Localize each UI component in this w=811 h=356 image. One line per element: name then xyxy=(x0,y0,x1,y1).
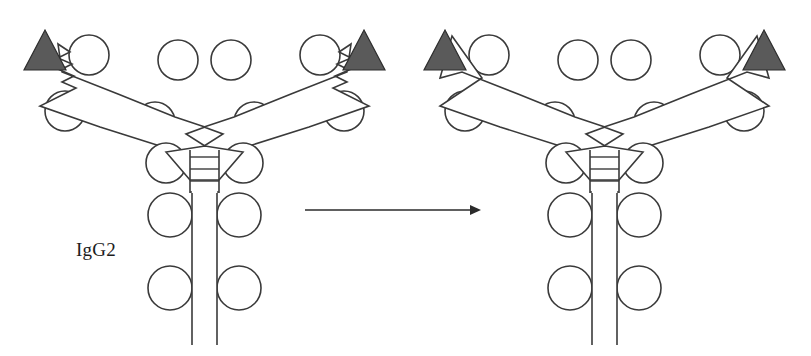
right-antibody xyxy=(424,30,785,345)
igg2-label: IgG2 xyxy=(76,239,116,260)
figure-canvas: IgG2 xyxy=(0,0,811,356)
domain-lobe xyxy=(558,40,598,80)
domain-lobe xyxy=(611,40,651,80)
domain-lobe xyxy=(617,266,661,310)
domain-lobe xyxy=(300,35,340,75)
stem-interior-mask xyxy=(192,190,217,310)
domain-lobe xyxy=(217,266,261,310)
domain-lobe xyxy=(548,266,592,310)
domain-lobe xyxy=(617,193,661,237)
domain-lobe xyxy=(548,193,592,237)
domain-lobe xyxy=(217,193,261,237)
reaction-arrow xyxy=(305,205,481,215)
domain-lobe xyxy=(211,40,251,80)
left-antibody: IgG2 xyxy=(24,30,385,345)
domain-lobe xyxy=(148,266,192,310)
arrow-head-icon xyxy=(470,205,481,215)
domain-lobe xyxy=(158,40,198,80)
stem-interior-mask xyxy=(592,190,617,310)
antibody-diagram: IgG2 xyxy=(0,0,811,356)
domain-lobe xyxy=(69,35,109,75)
domain-lobe xyxy=(148,193,192,237)
